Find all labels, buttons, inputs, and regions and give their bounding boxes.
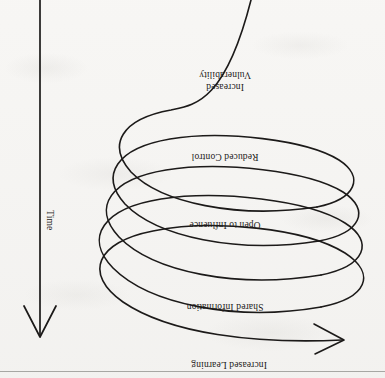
spiral-figure: Increased Vulnerability Reduced Control …	[0, 0, 385, 378]
stage-label-reduced-control: Reduced Control	[157, 151, 293, 163]
stage-label-line-2: Vulnerability	[157, 69, 293, 81]
stage-label-increased-vulnerability: Increased Vulnerability	[157, 69, 293, 92]
stage-label-line-1: Increased	[157, 81, 293, 93]
stage-label-increased-learning: Increased Learning	[155, 359, 303, 371]
stage-label-shared-information: Shared Information	[151, 301, 299, 313]
time-axis-label: Time	[45, 210, 55, 231]
time-axis-graphic	[10, 0, 70, 378]
helix-turn-4	[100, 226, 364, 341]
stage-label-open-to-influence: Open to Influence	[157, 219, 293, 231]
helix-turn-3	[99, 196, 362, 313]
page-bottom-rule	[0, 371, 385, 372]
scanned-page: Increased Vulnerability Reduced Control …	[0, 0, 385, 378]
